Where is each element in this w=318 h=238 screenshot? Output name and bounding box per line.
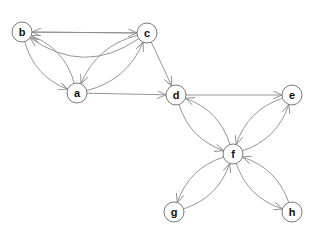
edge-e-to-f	[236, 98, 282, 144]
node-b: b	[12, 22, 32, 42]
edge-a-to-d	[87, 93, 166, 95]
node-d: d	[166, 85, 186, 105]
edge-f-to-g	[177, 157, 223, 202]
node-c: c	[137, 23, 157, 43]
node-label: d	[173, 89, 180, 101]
edge-c-to-a	[81, 35, 137, 83]
node-label: c	[144, 27, 150, 39]
edge-b-to-a	[25, 42, 68, 90]
node-a: a	[67, 83, 87, 103]
node-f: f	[223, 144, 243, 164]
node-label: a	[74, 87, 81, 99]
node-label: h	[289, 206, 296, 218]
edge-f-to-e	[242, 104, 288, 150]
directed-graph: abcdefgh	[0, 0, 318, 238]
edges-layer	[25, 32, 289, 209]
edge-a-to-c	[87, 42, 143, 90]
edge-f-to-h	[236, 163, 282, 208]
node-h: h	[282, 202, 302, 222]
node-label: f	[231, 148, 235, 160]
node-label: b	[19, 26, 26, 38]
node-g: g	[164, 202, 184, 222]
node-e: e	[282, 85, 302, 105]
edge-b-to-c	[32, 32, 137, 33]
edge-d-to-f	[179, 105, 224, 151]
node-label: e	[289, 89, 295, 101]
edge-h-to-f	[243, 157, 289, 202]
edge-c-to-d	[151, 42, 172, 86]
node-label: g	[171, 206, 178, 218]
edge-f-to-d	[185, 98, 230, 144]
edge-g-to-f	[184, 163, 230, 208]
